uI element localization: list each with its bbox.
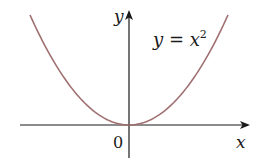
x-axis-label: x <box>236 132 246 152</box>
equation-label: y = x2 <box>152 28 207 50</box>
y-axis-label: y <box>113 6 124 26</box>
parabola-chart: y x 0 y = x2 <box>0 0 264 168</box>
origin-label: 0 <box>113 133 123 152</box>
